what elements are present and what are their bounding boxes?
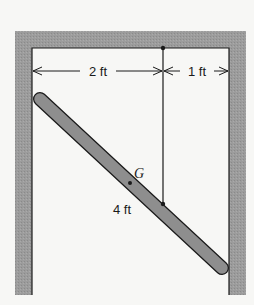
right-wall: [229, 31, 246, 295]
wall-inner-edge: [32, 48, 229, 295]
ceiling: [15, 31, 246, 48]
center-of-gravity-dot: [128, 181, 132, 185]
rod: [40, 99, 222, 268]
cable-attach-dot: [161, 202, 165, 206]
center-of-gravity-label: G: [134, 166, 144, 181]
left-wall: [15, 31, 32, 295]
diagram-canvas: 2 ft 1 ft G 4 ft: [0, 0, 254, 305]
dim-right-label: 1 ft: [188, 64, 206, 79]
dim-left-label: 2 ft: [89, 64, 107, 79]
diagram-svg: 2 ft 1 ft G 4 ft: [0, 0, 254, 305]
cable: [161, 46, 165, 204]
rod-length-label: 4 ft: [113, 202, 131, 217]
cable-anchor-dot: [161, 46, 165, 50]
